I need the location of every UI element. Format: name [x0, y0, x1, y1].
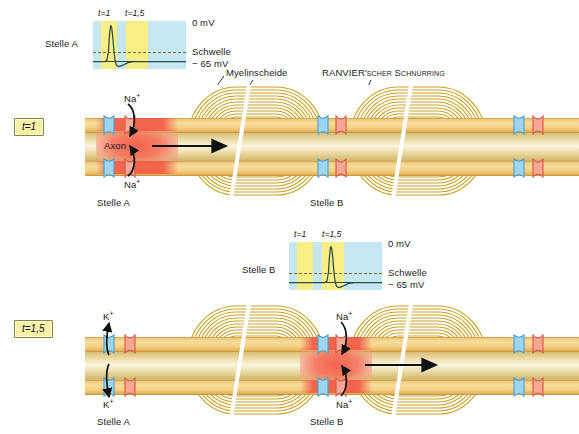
ion-label-na-bottom-b-p2: Na+	[336, 398, 353, 410]
flux-arrows-p2	[0, 219, 579, 434]
site-label-stelle-b-p2: Stelle B	[310, 416, 344, 427]
ion-label-na-top-b-p2: Na+	[336, 310, 353, 322]
panel-t1: t=1 Stelle A t=1 t=1,5 0 mV Schwelle − 6…	[0, 0, 579, 215]
figure-saltatory-conduction: t=1 Stelle A t=1 t=1,5 0 mV Schwelle − 6…	[0, 0, 579, 434]
ion-label-k-bottom-a-p2: K+	[103, 398, 114, 410]
label-axon-p1: Axon	[104, 140, 126, 151]
site-label-stelle-b-p1: Stelle B	[310, 197, 344, 208]
site-label-stelle-a-p2: Stelle A	[97, 416, 130, 427]
ion-label-na-top-a-p1: Na+	[124, 92, 141, 104]
na-flux-arrows-p1	[0, 0, 579, 215]
site-label-stelle-a-p1: Stelle A	[97, 197, 130, 208]
ion-label-na-bottom-a-p1: Na+	[124, 178, 141, 190]
panel-t15: t=1,5 Stelle B t=1 t=1,5 0 mV Schwelle −…	[0, 219, 579, 434]
ion-label-k-top-a-p2: K+	[103, 310, 114, 322]
